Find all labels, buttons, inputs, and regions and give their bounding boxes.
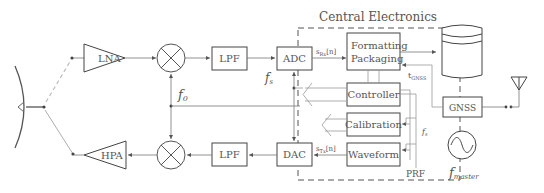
central-electronics-title: Central Electronics [319, 10, 437, 24]
formatting-packaging-block: Formatting Packaging [347, 33, 408, 70]
svg-text:LPF: LPF [219, 149, 239, 160]
calibration-output-arrow [322, 114, 347, 136]
switch-tx-arm [45, 110, 73, 154]
reflector-antenna-icon [15, 66, 43, 148]
oscillator-icon [448, 131, 476, 159]
switch-rx-arm [46, 60, 71, 102]
radar-block-diagram: Central Electronics LNA LPF ADC sRx[n] F… [0, 0, 544, 193]
s-rx-label: sRx[n] [316, 48, 336, 57]
gnss-block: GNSS [443, 97, 482, 117]
waveform-block: Waveform [347, 143, 400, 166]
svg-text:HPA: HPA [101, 150, 124, 161]
hpa-block: HPA [84, 141, 126, 169]
controller-block: Controller [347, 83, 400, 106]
f-master-label: fmaster [448, 165, 479, 181]
svg-text:DAC: DAC [283, 149, 306, 160]
lpf-rx-block: LPF [212, 47, 247, 70]
mixer-icon [157, 141, 185, 169]
lna-block: LNA [84, 44, 125, 72]
svg-text:ADC: ADC [282, 53, 306, 64]
controller-output-arrow [303, 83, 347, 106]
switch-pivot [42, 105, 45, 108]
s-tx-label: sTx[n] [316, 145, 336, 154]
adc-block: ADC [277, 47, 312, 70]
lpf-tx-block: LPF [212, 143, 247, 166]
svg-text:Controller: Controller [347, 89, 399, 100]
svg-text:Formatting: Formatting [351, 40, 408, 51]
svg-text:LPF: LPF [219, 53, 239, 64]
gnss-antenna-icon [511, 77, 527, 90]
f0-label: f0 [177, 87, 188, 103]
mixer-icon [157, 44, 185, 72]
fs-right-label: fs [421, 127, 428, 137]
storage-icon [442, 25, 482, 78]
prf-label: PRF [406, 169, 425, 179]
svg-text:Packaging: Packaging [351, 53, 404, 64]
svg-text:GNSS: GNSS [449, 103, 476, 113]
svg-text:LNA: LNA [98, 53, 121, 64]
svg-text:Calibration: Calibration [345, 119, 402, 130]
dac-block: DAC [277, 143, 312, 166]
fs-label: fs [264, 71, 273, 86]
t-gnss-label: tGNSS [408, 71, 427, 81]
calibration-block: Calibration [345, 113, 402, 136]
svg-text:Waveform: Waveform [348, 149, 399, 160]
